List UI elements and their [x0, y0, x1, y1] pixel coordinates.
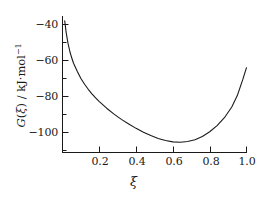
- x-tick-label-1-0: 1.0: [239, 156, 256, 168]
- data-curve-gibbs-energy: [65, 21, 247, 142]
- x-tick-label-0-2: 0.2: [92, 156, 109, 168]
- y-axis-tick-labels: −40 −60 −80 −100: [0, 0, 58, 204]
- y-tick-label-80: −80: [35, 91, 58, 102]
- x-axis-tick-labels: 0.2 0.4 0.6 0.8 1.0: [0, 156, 267, 172]
- y-axis-title: G(ξ) / kJ·mol−1: [13, 10, 28, 160]
- x-axis-title: ξ: [0, 175, 267, 189]
- x-tick-label-0-8: 0.8: [203, 156, 220, 168]
- x-axis-major-ticks: [100, 147, 247, 153]
- y-axis-title-unit-exponent: −1: [14, 43, 23, 55]
- x-axis-title-symbol: ξ: [130, 174, 137, 189]
- figure-container: −40 −60 −80 −100 0.2 0.4 0.6 0.8 1.0 G(ξ…: [0, 0, 267, 204]
- x-tick-label-0-4: 0.4: [129, 156, 146, 168]
- y-tick-label-60: −60: [35, 55, 58, 66]
- y-tick-label-100: −100: [29, 127, 58, 138]
- y-axis-title-close-paren: ): [14, 103, 28, 108]
- y-axis-title-variable: ξ: [14, 108, 28, 114]
- y-axis-title-separator: /: [14, 92, 28, 103]
- y-tick-label-40: −40: [35, 19, 58, 30]
- y-axis-title-unit: kJ·mol: [14, 55, 28, 92]
- y-axis-title-symbol: G: [14, 118, 28, 127]
- y-axis-title-open-paren: (: [14, 114, 28, 119]
- x-tick-label-0-6: 0.6: [166, 156, 183, 168]
